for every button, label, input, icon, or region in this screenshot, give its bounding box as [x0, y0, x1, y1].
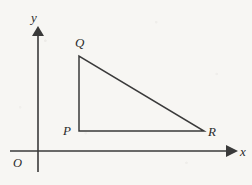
- y-axis-arrowhead: [32, 26, 44, 36]
- vertex-label-p: P: [62, 123, 71, 138]
- origin-label: O: [13, 156, 22, 170]
- x-axis-label: x: [239, 144, 246, 159]
- x-axis-arrowhead: [226, 145, 238, 157]
- triangle-pqr: [79, 56, 204, 131]
- y-axis-label: y: [29, 10, 37, 25]
- coordinate-plane-figure: y x O Q P R: [0, 0, 252, 185]
- vertex-label-r: R: [207, 124, 216, 139]
- figure-canvas: y x O Q P R: [0, 0, 252, 185]
- vertex-label-q: Q: [75, 35, 85, 50]
